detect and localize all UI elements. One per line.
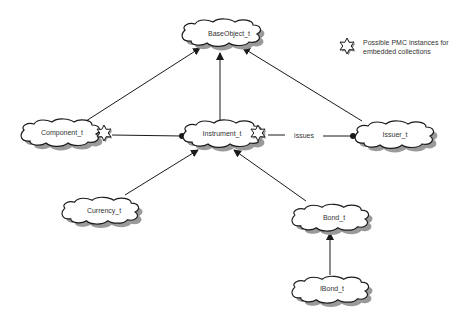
edges — [86, 48, 362, 275]
edge-component-baseobject — [86, 48, 200, 121]
node-ibond[interactable] — [292, 276, 373, 307]
edge-issuer-baseobject — [243, 48, 362, 121]
node-label-component: Component_t — [41, 129, 83, 136]
star-burst-icon-legend — [340, 38, 356, 56]
legend-text: Possible PMC instances for embedded coll… — [363, 38, 449, 56]
node-label-issuer: Issuer_t — [383, 131, 408, 138]
edge-component-instrument — [112, 135, 182, 136]
edge-bond-instrument — [234, 150, 306, 201]
node-label-baseobject: BaseObject_t — [208, 30, 250, 37]
legend-line-2: embedded collections — [363, 47, 449, 56]
legend-line-1: Possible PMC instances for — [363, 38, 449, 47]
edge-currency-instrument — [125, 150, 198, 195]
edge-label-issues: issues — [290, 132, 318, 139]
node-label-instrument: Instrument_t — [203, 130, 242, 137]
node-label-bond: Bond_t — [323, 214, 345, 221]
node-label-currency: Currency_t — [87, 207, 121, 214]
node-label-ibond: IBond_t — [320, 285, 344, 292]
